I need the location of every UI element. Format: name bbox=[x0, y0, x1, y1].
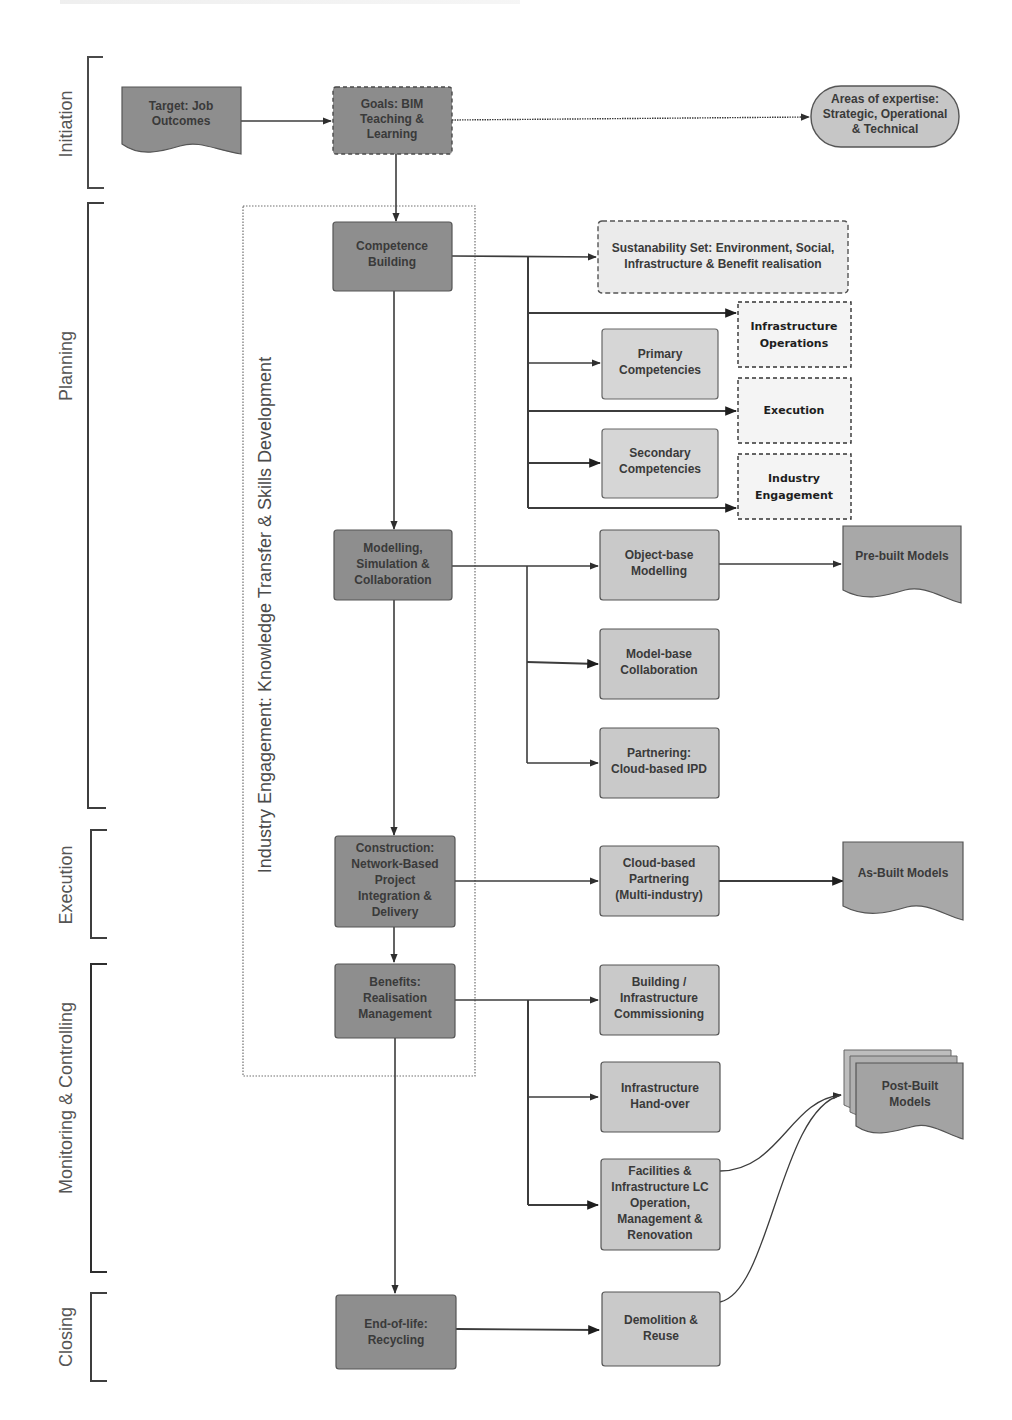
bracket-icon bbox=[88, 57, 104, 188]
node-label: Infrastructure LC bbox=[611, 1180, 709, 1194]
node-label: Goals: BIM bbox=[361, 97, 424, 111]
swimlane-industry-engagement: Industry Engagement: Knowledge Transfer … bbox=[243, 206, 475, 1076]
node-goals-bim-teaching[interactable]: Goals: BIMTeaching &Learning bbox=[333, 87, 452, 154]
node-competence-building[interactable]: CompetenceBuilding bbox=[333, 222, 452, 291]
node-label: Competence bbox=[356, 239, 428, 253]
node-label: Pre-built Models bbox=[855, 549, 949, 563]
bracket-icon bbox=[91, 830, 107, 938]
node-label: Competencies bbox=[619, 363, 701, 377]
node-label: Target: Job bbox=[149, 99, 213, 113]
node-demolition-reuse[interactable]: Demolition &Reuse bbox=[602, 1292, 720, 1366]
node-label: Infrastructure bbox=[621, 1081, 699, 1095]
node-label: Strategic, Operational bbox=[823, 107, 948, 121]
swimlane-border bbox=[243, 206, 475, 1076]
node-as-built-models[interactable]: As-Built Models bbox=[843, 842, 963, 920]
node-label: Reuse bbox=[643, 1329, 679, 1343]
node-infrastructure-operations[interactable]: InfrastructureOperations bbox=[738, 302, 851, 367]
phase-label: Execution bbox=[56, 845, 76, 924]
node-label: Cloud-based bbox=[623, 856, 696, 870]
node-label: Model-base bbox=[626, 647, 692, 661]
bracket-icon bbox=[91, 964, 107, 1272]
node-label: Primary bbox=[638, 347, 683, 361]
node-label: Object-base bbox=[625, 548, 694, 562]
node-post-built-models[interactable]: Post-BuiltModels bbox=[844, 1050, 963, 1139]
node-label: Building / bbox=[632, 975, 687, 989]
svg-text:Goals: BIMTeaching &Learning: Goals: BIMTeaching &Learning bbox=[360, 97, 424, 141]
node-label: Facilities & bbox=[628, 1164, 692, 1178]
node-pre-built-models[interactable]: Pre-built Models bbox=[843, 526, 961, 603]
node-label: Models bbox=[889, 1095, 931, 1109]
node-label: Modelling bbox=[631, 564, 687, 578]
node-cloud-based-partnering[interactable]: Cloud-basedPartnering(Multi-industry) bbox=[600, 846, 719, 916]
node-label: Infrastructure & Benefit realisation bbox=[624, 257, 821, 271]
node-label: Commissioning bbox=[614, 1007, 704, 1021]
node-label: Sustanability Set: Environment, Social, bbox=[612, 241, 835, 255]
node-label: Benefits: bbox=[369, 975, 420, 989]
node-label: Renovation bbox=[627, 1228, 692, 1242]
node-label: Partnering bbox=[629, 872, 689, 886]
node-object-base-modelling[interactable]: Object-baseModelling bbox=[600, 530, 719, 600]
node-label: Partnering: bbox=[627, 746, 691, 760]
node-secondary-competencies[interactable]: SecondaryCompetencies bbox=[602, 429, 718, 498]
node-target-job-outcomes[interactable]: Target: JobOutcomes bbox=[122, 87, 241, 154]
node-label: Recycling bbox=[368, 1333, 425, 1347]
node-label: Modelling, bbox=[363, 541, 422, 555]
node-label: Building bbox=[368, 255, 416, 269]
node-areas-of-expertise[interactable]: Areas of expertise:Strategic, Operationa… bbox=[811, 86, 959, 147]
phase-execution: Execution bbox=[56, 830, 107, 938]
phase-planning: Planning bbox=[56, 203, 106, 808]
node-sustainability-set[interactable]: Sustanability Set: Environment, Social,I… bbox=[598, 221, 848, 293]
node-label: Management bbox=[358, 1007, 431, 1021]
phase-initiation: Initiation bbox=[56, 57, 104, 188]
phase-label: Planning bbox=[56, 331, 76, 401]
node-label: Collaboration bbox=[354, 573, 431, 587]
phase-monitoring: Monitoring & Controlling bbox=[56, 964, 107, 1272]
node-label: Integration & bbox=[358, 889, 432, 903]
node-label: As-Built Models bbox=[858, 866, 949, 880]
node-label: Operations bbox=[760, 337, 829, 350]
node-label: End-of-life: bbox=[364, 1317, 427, 1331]
diagram-canvas: Initiation Planning Execution Monitoring… bbox=[0, 0, 1012, 1420]
node-infrastructure-handover[interactable]: InfrastructureHand-over bbox=[601, 1062, 720, 1132]
node-benefits-realisation[interactable]: Benefits:RealisationManagement bbox=[335, 964, 455, 1038]
node-label: Hand-over bbox=[630, 1097, 690, 1111]
node-label: Learning bbox=[367, 127, 418, 141]
node-label: Engagement bbox=[755, 489, 833, 502]
node-label: Industry bbox=[768, 472, 820, 485]
node-commissioning[interactable]: Building /InfrastructureCommissioning bbox=[600, 965, 719, 1035]
phase-closing: Closing bbox=[56, 1293, 107, 1381]
node-label: Secondary bbox=[629, 446, 691, 460]
node-label: Realisation bbox=[363, 991, 427, 1005]
node-modelling-simulation-collaboration[interactable]: Modelling,Simulation &Collaboration bbox=[334, 530, 452, 600]
node-partnering-cloud-ipd[interactable]: Partnering:Cloud-based IPD bbox=[600, 728, 719, 798]
node-label: Competencies bbox=[619, 462, 701, 476]
node-label: Teaching & bbox=[360, 112, 424, 126]
swimlane-label: Industry Engagement: Knowledge Transfer … bbox=[255, 357, 275, 873]
phase-label: Monitoring & Controlling bbox=[56, 1002, 76, 1194]
node-label: Infrastructure bbox=[620, 991, 698, 1005]
node-label: Collaboration bbox=[620, 663, 697, 677]
phase-label: Closing bbox=[56, 1307, 76, 1367]
node-label: Project bbox=[375, 873, 416, 887]
node-label: Outcomes bbox=[152, 114, 211, 128]
node-label: (Multi-industry) bbox=[615, 888, 702, 902]
node-execution[interactable]: Execution bbox=[738, 378, 851, 443]
node-label: Management & bbox=[617, 1212, 703, 1226]
node-model-base-collaboration[interactable]: Model-baseCollaboration bbox=[600, 629, 719, 699]
connectors bbox=[241, 117, 843, 1330]
node-label: Execution bbox=[764, 404, 825, 417]
node-construction[interactable]: Construction:Network-BasedProjectIntegra… bbox=[335, 836, 455, 927]
node-label: Construction: bbox=[356, 841, 435, 855]
bracket-icon bbox=[91, 1293, 107, 1381]
phase-label: Initiation bbox=[56, 90, 76, 157]
node-label: Network-Based bbox=[351, 857, 438, 871]
node-label: Operation, bbox=[630, 1196, 690, 1210]
node-label: Simulation & bbox=[356, 557, 430, 571]
node-label: Demolition & bbox=[624, 1313, 698, 1327]
node-facilities-lc-operation[interactable]: Facilities &Infrastructure LCOperation,M… bbox=[601, 1159, 720, 1250]
node-primary-competencies[interactable]: PrimaryCompetencies bbox=[602, 329, 718, 399]
node-end-of-life-recycling[interactable]: End-of-life:Recycling bbox=[336, 1295, 456, 1369]
svg-text:Target: JobOutcomes: Target: JobOutcomes bbox=[149, 99, 213, 128]
svg-text:Modelling,Simulation &Collabor: Modelling,Simulation &Collaboration bbox=[354, 541, 431, 587]
node-industry-engagement[interactable]: IndustryEngagement bbox=[738, 454, 851, 519]
